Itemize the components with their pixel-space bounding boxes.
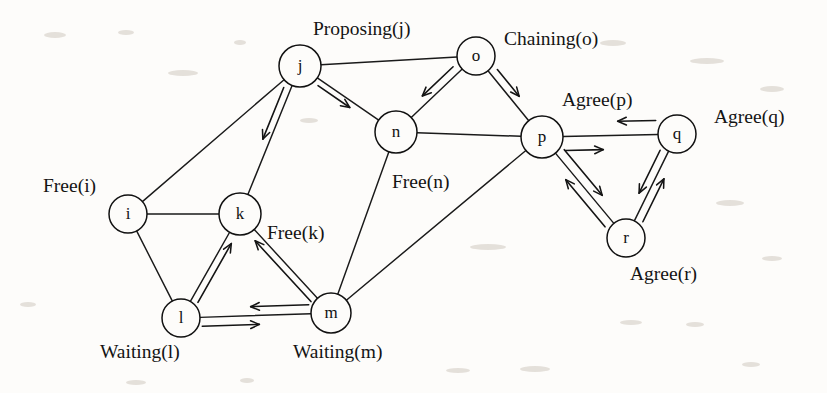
paper-speck [446, 368, 470, 373]
graph-node-o[interactable]: o [457, 37, 495, 75]
node-label-p: p [538, 127, 547, 146]
state-label-free-i: Free(i) [43, 175, 96, 197]
graph-node-j[interactable]: j [279, 45, 321, 87]
graph-arrow-q-to-p [618, 117, 656, 125]
graph-arrow-m-to-l [251, 303, 309, 311]
state-label-free-k: Free(k) [267, 222, 324, 244]
node-label-l: l [179, 308, 184, 327]
node-label-i: i [126, 204, 131, 223]
graph-arrow-l-to-m [202, 321, 259, 329]
graph-arrow-l-to-k [198, 244, 231, 303]
state-label-proposing-j: Proposing(j) [313, 18, 411, 40]
paper-speck [240, 378, 254, 383]
paper-speck [520, 366, 550, 372]
graph-node-q[interactable]: q [658, 115, 696, 153]
node-label-o: o [472, 46, 481, 65]
paper-speck [620, 320, 642, 325]
graph-arrow-m-to-k [255, 241, 311, 302]
node-label-k: k [236, 204, 245, 223]
paper-speck [470, 244, 506, 250]
graph-node-p[interactable]: p [521, 116, 563, 158]
node-label-n: n [392, 122, 401, 141]
graph-node-n[interactable]: n [375, 111, 417, 153]
state-graph-diagram: ijklmnopqr Free(i)Proposing(j)Chaining(o… [0, 0, 827, 393]
state-label-agree-r: Agree(r) [630, 263, 697, 285]
graph-edge-n-o [411, 69, 462, 117]
paper-speck [20, 302, 36, 307]
state-label-free-n: Free(n) [392, 171, 449, 193]
graph-edge-i-l [137, 231, 173, 301]
graph-edge-k-l [190, 232, 229, 301]
paper-speck [760, 86, 784, 92]
graph-edge-n-p [417, 133, 521, 137]
graph-arrow-p-to-r [564, 150, 602, 196]
graph-edge-n-m [338, 152, 389, 294]
state-label-agree-p: Agree(p) [562, 89, 632, 111]
paper-speck [762, 256, 782, 261]
node-label-m: m [324, 303, 337, 322]
graph-edge-o-p [488, 71, 529, 121]
paper-speck [126, 380, 146, 385]
graph-edge-l-m [200, 314, 311, 318]
state-label-waiting-l: Waiting(l) [100, 341, 180, 363]
state-label-chaining-o: Chaining(o) [504, 28, 598, 50]
node-label-r: r [623, 228, 629, 247]
node-label-q: q [673, 124, 682, 143]
graph-node-i[interactable]: i [109, 195, 147, 233]
paper-speck [168, 70, 198, 76]
graph-edge-j-n [317, 78, 378, 120]
paper-speck [716, 200, 744, 206]
graph-edge-p-r [555, 153, 613, 223]
graph-arrow-o-to-p [497, 70, 519, 97]
state-label-waiting-m: Waiting(m) [293, 341, 382, 363]
graph-arrow-q-to-r [639, 150, 660, 193]
graph-canvas: ijklmnopqr Free(i)Proposing(j)Chaining(o… [0, 0, 827, 393]
graph-node-k[interactable]: k [219, 193, 261, 235]
graph-edge-p-q [563, 134, 658, 136]
state-label-agree-q: Agree(q) [714, 106, 784, 128]
paper-speck [118, 30, 134, 35]
paper-speck [600, 40, 626, 46]
paper-speck [742, 362, 760, 367]
graph-edge-i-j [142, 80, 284, 202]
paper-speck [686, 322, 704, 327]
graph-arrow-p-to-q [565, 146, 603, 154]
graph-node-r[interactable]: r [607, 219, 645, 257]
paper-speck [44, 32, 66, 38]
graph-node-l[interactable]: l [162, 299, 200, 337]
paper-speck [690, 58, 724, 64]
paper-speck [234, 40, 246, 45]
paper-speck [300, 118, 318, 123]
graph-node-m[interactable]: m [311, 293, 351, 333]
graph-edge-j-k [248, 85, 292, 194]
graph-edge-j-o [321, 57, 457, 65]
node-label-j: j [297, 56, 303, 75]
graph-arrow-r-to-q [643, 179, 664, 222]
